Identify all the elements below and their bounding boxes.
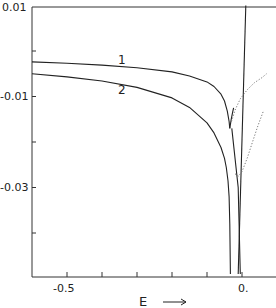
curve-2-label: 2 xyxy=(118,83,126,97)
data-series xyxy=(32,6,267,275)
series-2 xyxy=(32,74,230,274)
x-axis-arrow-icon xyxy=(163,299,186,305)
x-tick-label-m0.5: -0.5 xyxy=(53,282,74,295)
series-1 xyxy=(32,62,230,128)
y-tick-label-m0.01: -0.01 xyxy=(0,90,28,103)
y-tick-label-0.01: 0.01 xyxy=(2,1,27,14)
x-axis-title: E xyxy=(139,294,147,308)
y-tick-label-m0.03: -0.03 xyxy=(0,181,28,194)
series-dotted-upper xyxy=(232,74,267,122)
series-dotted-lower xyxy=(235,110,264,176)
line-chart: 0.01 -0.01 -0.03 -0.5 0. 1 2 E xyxy=(0,0,276,308)
curve-1-label: 1 xyxy=(118,53,126,67)
x-tick-label-0: 0. xyxy=(238,282,249,295)
